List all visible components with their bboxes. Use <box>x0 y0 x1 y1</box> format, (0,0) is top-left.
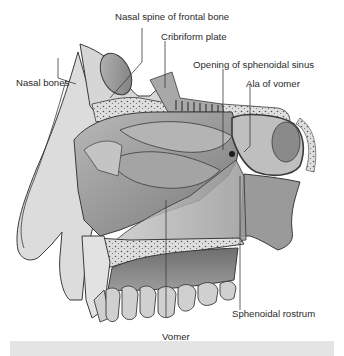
label-nasal-spine-frontal-bone: Nasal spine of frontal bone <box>115 12 229 22</box>
nasal-cavity-illustration <box>0 0 344 356</box>
label-sphenoidal-rostrum: Sphenoidal rostrum <box>232 309 315 319</box>
label-cribriform-plate: Cribriform plate <box>161 32 227 42</box>
label-nasal-bones: Nasal bones <box>16 78 69 88</box>
sphenoid-body <box>240 174 300 250</box>
sphenoidal-sinus-opening <box>229 151 235 157</box>
caption-bar <box>10 341 334 356</box>
label-vomer: Vomer <box>162 332 190 342</box>
label-opening-sphenoidal-sinus: Opening of sphenoidal sinus <box>193 60 314 70</box>
label-ala-of-vomer: Ala of vomer <box>246 79 300 89</box>
